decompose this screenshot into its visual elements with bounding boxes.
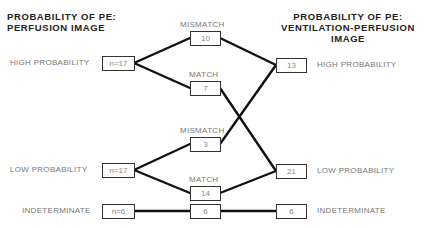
mid-box-match-low: 14: [190, 186, 221, 201]
right-title: PROBABILITY OF PE: VENTILATION-PERFUSION…: [268, 11, 428, 44]
mid-label-match-high: MATCH: [189, 70, 218, 80]
left-title-line-1: PROBABILITY OF PE:: [7, 11, 116, 22]
right-label-high: HIGH PROBABILITY: [317, 60, 396, 70]
right-label-low: LOW PROBABILITY: [317, 166, 394, 176]
mid-box-mismatch-low: 3: [190, 137, 221, 152]
right-label-indeterminate: INDETERMINATE: [317, 206, 386, 216]
left-label-high: HIGH PROBABILITY: [10, 58, 89, 68]
right-title-line-3: IMAGE: [268, 33, 428, 44]
right-box-indeterminate: 6: [276, 204, 307, 219]
pe-probability-flow-diagram: PROBABILITY OF PE: PERFUSION IMAGE PROBA…: [0, 0, 428, 228]
left-box-high: n=17: [102, 56, 135, 71]
left-label-indeterminate: INDETERMINATE: [22, 206, 91, 216]
left-title-line-2: PERFUSION IMAGE: [7, 22, 116, 33]
mid-box-mismatch-high: 10: [190, 31, 221, 46]
left-label-low: LOW PROBABILITY: [10, 165, 87, 175]
mid-box-indeterminate: 6: [190, 204, 221, 219]
mid-label-mismatch-high: MISMATCH: [180, 20, 224, 30]
right-box-high: 13: [276, 58, 307, 73]
right-title-line-1: PROBABILITY OF PE:: [268, 11, 428, 22]
left-box-indeterminate: n=6: [102, 204, 135, 219]
mid-box-match-high: 7: [190, 81, 221, 96]
right-title-line-2: VENTILATION-PERFUSION: [268, 22, 428, 33]
left-box-low: n=17: [102, 163, 135, 178]
mid-label-mismatch-low: MISMATCH: [180, 126, 224, 136]
right-box-low: 21: [276, 164, 307, 179]
left-title: PROBABILITY OF PE: PERFUSION IMAGE: [7, 11, 116, 33]
mid-label-match-low: MATCH: [189, 175, 218, 185]
